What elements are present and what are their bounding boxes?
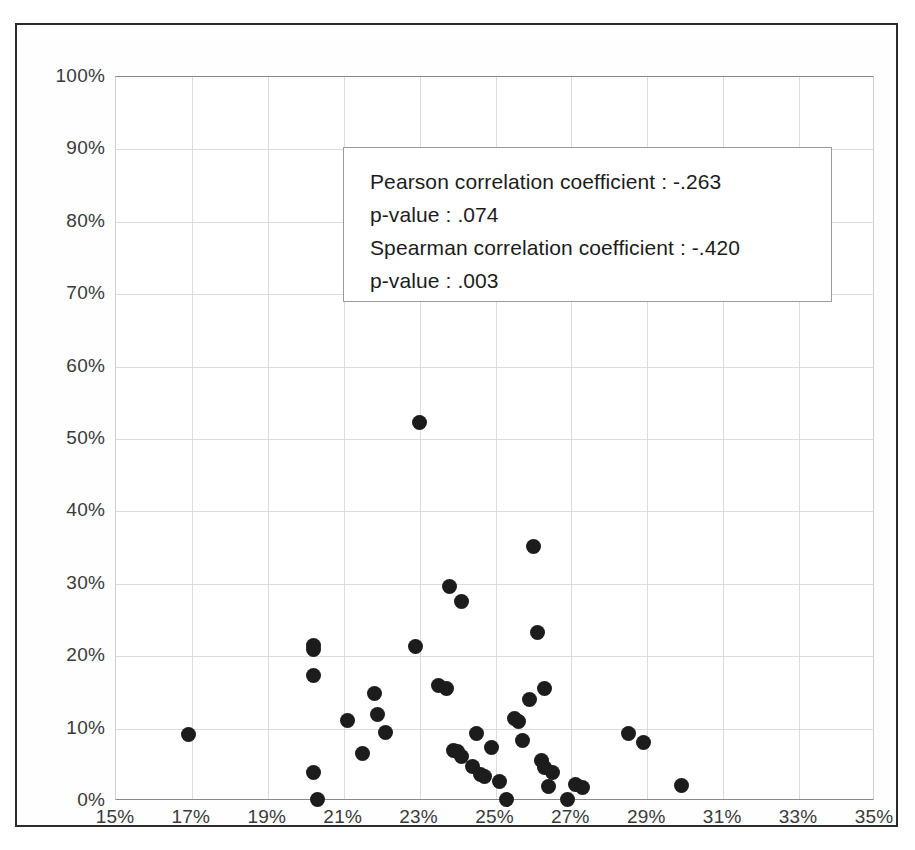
x-axis-tick-label: 21%: [323, 806, 362, 828]
scatter-point: [484, 740, 499, 755]
annotation-line-pearson-r: Pearson correlation coefficient : -.263: [370, 165, 831, 198]
scatter-point: [477, 769, 492, 784]
x-axis-tick-label: 27%: [551, 806, 590, 828]
scatter-point: [310, 792, 325, 807]
scatter-point: [439, 681, 454, 696]
scatter-point: [306, 765, 321, 780]
chart-frame: 0%10%20%30%40%50%60%70%80%90%100% 15%17%…: [15, 23, 898, 827]
x-axis-tick-label: 33%: [779, 806, 818, 828]
y-axis-tick-label: 60%: [66, 355, 105, 377]
x-axis-tick-label: 25%: [475, 806, 514, 828]
gridline-horizontal: [116, 511, 873, 512]
scatter-point: [181, 727, 196, 742]
y-axis-tick-label: 80%: [66, 210, 105, 232]
scatter-point: [545, 765, 560, 780]
scatter-point: [526, 539, 541, 554]
scatter-point: [469, 726, 484, 741]
annotation-line-spearman-rho: Spearman correlation coefficient : -.420: [370, 231, 831, 264]
scatter-point: [541, 779, 556, 794]
scatter-point: [355, 746, 370, 761]
statistics-annotation-box: Pearson correlation coefficient : -.263 …: [343, 147, 832, 302]
gridline-vertical: [192, 77, 193, 799]
scatter-point: [522, 692, 537, 707]
scatter-point: [340, 713, 355, 728]
x-axis-tick-label: 19%: [247, 806, 286, 828]
scatter-point: [511, 714, 526, 729]
x-axis-tick-label: 23%: [399, 806, 438, 828]
y-axis-tick-label: 20%: [66, 644, 105, 666]
y-axis-tick-label: 100%: [56, 65, 105, 87]
scatter-point: [492, 774, 507, 789]
y-axis-tick-label: 50%: [66, 427, 105, 449]
annotation-line-pearson-p: p-value : .074: [370, 198, 831, 231]
scatter-point: [515, 733, 530, 748]
scatter-point: [575, 780, 590, 795]
y-axis-tick-labels: 0%10%20%30%40%50%60%70%80%90%100%: [17, 76, 105, 800]
y-axis-tick-label: 90%: [66, 137, 105, 159]
gridline-horizontal: [116, 367, 873, 368]
scatter-point: [454, 594, 469, 609]
scatter-point: [674, 778, 689, 793]
x-axis-tick-label: 15%: [96, 806, 135, 828]
scatter-point: [636, 735, 651, 750]
scatter-point: [408, 639, 423, 654]
scatter-point: [499, 792, 514, 807]
scatter-point: [412, 415, 427, 430]
y-axis-tick-label: 70%: [66, 282, 105, 304]
scatter-point: [378, 725, 393, 740]
gridline-horizontal: [116, 439, 873, 440]
scatter-point: [306, 668, 321, 683]
gridline-horizontal: [116, 584, 873, 585]
scatter-point: [306, 642, 321, 657]
scatter-point: [530, 625, 545, 640]
y-axis-tick-label: 10%: [66, 717, 105, 739]
x-axis-tick-label: 35%: [855, 806, 894, 828]
annotation-line-spearman-p: p-value : .003: [370, 264, 831, 297]
scatter-point: [621, 726, 636, 741]
scatter-point: [367, 686, 382, 701]
x-axis-tick-labels: 15%17%19%21%23%25%27%29%31%33%35%: [115, 806, 874, 840]
scatter-point: [537, 681, 552, 696]
scatter-point: [442, 579, 457, 594]
x-axis-tick-label: 31%: [703, 806, 742, 828]
gridline-horizontal: [116, 729, 873, 730]
y-axis-tick-label: 40%: [66, 499, 105, 521]
scatter-point: [370, 707, 385, 722]
x-axis-tick-label: 29%: [627, 806, 666, 828]
y-axis-tick-label: 30%: [66, 572, 105, 594]
gridline-horizontal: [116, 656, 873, 657]
gridline-vertical: [268, 77, 269, 799]
scatter-point: [560, 792, 575, 807]
x-axis-tick-label: 17%: [172, 806, 211, 828]
